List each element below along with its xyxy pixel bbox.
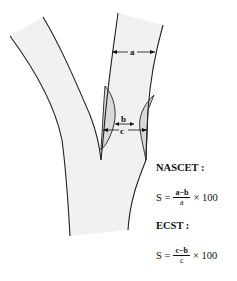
ecst-title: ECST : [156,218,237,234]
nascet-formula: S = a−b a × 100 [156,186,237,208]
ecst-formula: S = c−b c × 100 [156,244,237,266]
ecst-numerator: c−b [173,246,190,256]
nascet-title: NASCET : [156,160,237,176]
ecst-multiplier: × 100 [193,250,217,261]
nascet-lhs: S = [156,192,170,203]
stenosis-formulas: NASCET : S = a−b a × 100 ECST : S = c−b … [156,160,237,276]
ecst-fraction: c−b c [173,246,190,265]
nascet-numerator: a−b [173,188,190,198]
label-b: b [121,114,126,124]
ecst-denominator: c [178,256,186,265]
nascet-multiplier: × 100 [193,192,217,203]
nascet-denominator: a [178,198,186,207]
label-a: a [130,47,135,57]
label-c: c [120,126,124,136]
ecst-lhs: S = [156,250,170,261]
nascet-fraction: a−b a [173,188,190,207]
